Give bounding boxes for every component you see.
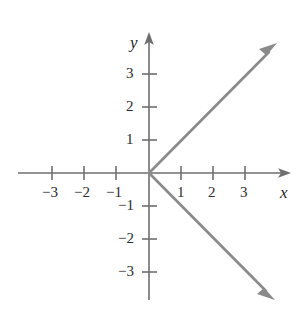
- x-axis-label: x: [280, 184, 288, 201]
- x-tick-label-1: 1: [177, 185, 185, 200]
- series-upper-ray: [149, 52, 269, 173]
- y-tick-label-neg1: −1: [118, 198, 134, 213]
- graph-figure: y x −3 −2 −1 1 2 3 3 2 1 −1 −2 −3: [0, 0, 308, 333]
- x-tick-label-3: 3: [240, 185, 248, 200]
- y-axis-label: y: [130, 34, 138, 51]
- y-tick-label-3: 3: [126, 66, 134, 81]
- y-tick-label-1: 1: [126, 132, 134, 147]
- y-tick-label-neg2: −2: [118, 231, 134, 246]
- y-tick-label-2: 2: [126, 99, 134, 114]
- coordinate-plane-svg: [0, 0, 308, 333]
- x-tick-label-2: 2: [208, 185, 216, 200]
- x-tick-label-neg3: −3: [42, 185, 58, 200]
- y-tick-label-neg3: −3: [118, 264, 134, 279]
- x-tick-label-neg2: −2: [74, 185, 90, 200]
